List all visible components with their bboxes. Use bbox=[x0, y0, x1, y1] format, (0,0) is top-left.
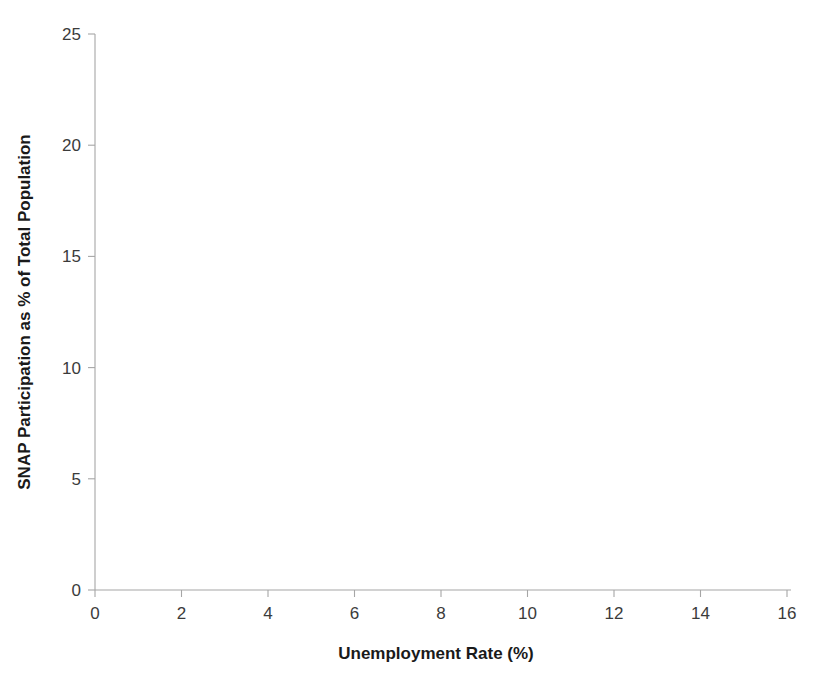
y-axis-title: SNAP Participation as % of Total Populat… bbox=[15, 134, 34, 489]
x-tick-label: 4 bbox=[263, 604, 272, 623]
y-tick-label: 25 bbox=[62, 25, 81, 44]
x-tick-label: 8 bbox=[436, 604, 445, 623]
x-tick-label: 12 bbox=[605, 604, 624, 623]
chart-svg: 02468101214160510152025 Unemployment Rat… bbox=[0, 0, 822, 679]
y-tick-label: 5 bbox=[72, 470, 81, 489]
x-tick-label: 6 bbox=[350, 604, 359, 623]
x-tick-label: 10 bbox=[518, 604, 537, 623]
x-tick-label: 0 bbox=[90, 604, 99, 623]
x-tick-label: 16 bbox=[778, 604, 797, 623]
bubble-chart: 02468101214160510152025 Unemployment Rat… bbox=[0, 0, 822, 679]
y-tick-label: 15 bbox=[62, 247, 81, 266]
x-tick-label: 2 bbox=[177, 604, 186, 623]
x-axis-title: Unemployment Rate (%) bbox=[338, 644, 534, 663]
y-tick-label: 20 bbox=[62, 136, 81, 155]
axes: 02468101214160510152025 bbox=[62, 25, 796, 623]
y-tick-label: 0 bbox=[72, 581, 81, 600]
x-tick-label: 14 bbox=[691, 604, 710, 623]
y-tick-label: 10 bbox=[62, 359, 81, 378]
